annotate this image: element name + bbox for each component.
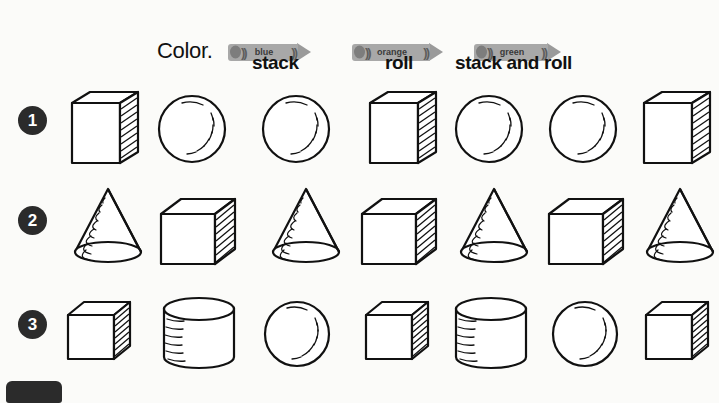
- page-bottom-mark: [6, 381, 62, 403]
- shape-rectangular-prism[interactable]: [68, 89, 146, 167]
- crayon-cap-icon: [230, 46, 241, 59]
- shape-rectangular-prism[interactable]: [640, 89, 718, 167]
- shape-sphere[interactable]: [156, 93, 228, 165]
- shape-sphere[interactable]: [260, 93, 332, 165]
- shape-cube[interactable]: [64, 299, 138, 365]
- crayon-tip-icon: [429, 43, 443, 61]
- crayon-ripple-right-icon: )): [423, 46, 428, 59]
- row-badge-1: 1: [18, 106, 47, 135]
- shape-cube[interactable]: [358, 196, 444, 270]
- shape-rectangular-prism[interactable]: [366, 89, 444, 167]
- crayon-label-blue: blue: [255, 48, 274, 57]
- crayon-ripple-left-icon: )): [365, 46, 370, 59]
- shape-cube[interactable]: [362, 299, 436, 365]
- shape-cylinder[interactable]: [158, 295, 240, 375]
- row-badge-2: 2: [18, 206, 47, 235]
- shape-sphere[interactable]: [550, 299, 620, 369]
- shape-sphere[interactable]: [453, 93, 525, 165]
- shape-cone[interactable]: [64, 186, 150, 268]
- crayon-cap-icon: [354, 46, 365, 59]
- crayon-label-orange: orange: [377, 48, 407, 57]
- shape-sphere[interactable]: [262, 299, 332, 369]
- row-badge-3: 3: [18, 310, 47, 339]
- shape-sphere[interactable]: [547, 93, 619, 165]
- shape-cylinder[interactable]: [450, 295, 532, 375]
- shape-cube[interactable]: [545, 196, 631, 270]
- color-instruction-label: Color.: [157, 40, 213, 62]
- shape-cube[interactable]: [157, 196, 243, 270]
- worksheet-header: Color. )) blue )) )) orange )): [0, 18, 711, 52]
- crayon-label-green: green: [500, 48, 525, 57]
- crayon-ripple-left-icon: )): [241, 46, 246, 59]
- shape-cone[interactable]: [636, 186, 719, 268]
- shape-cone[interactable]: [450, 186, 536, 268]
- shape-cube[interactable]: [642, 299, 716, 365]
- shape-cone[interactable]: [262, 186, 348, 268]
- crayon-tip-icon: [297, 43, 311, 61]
